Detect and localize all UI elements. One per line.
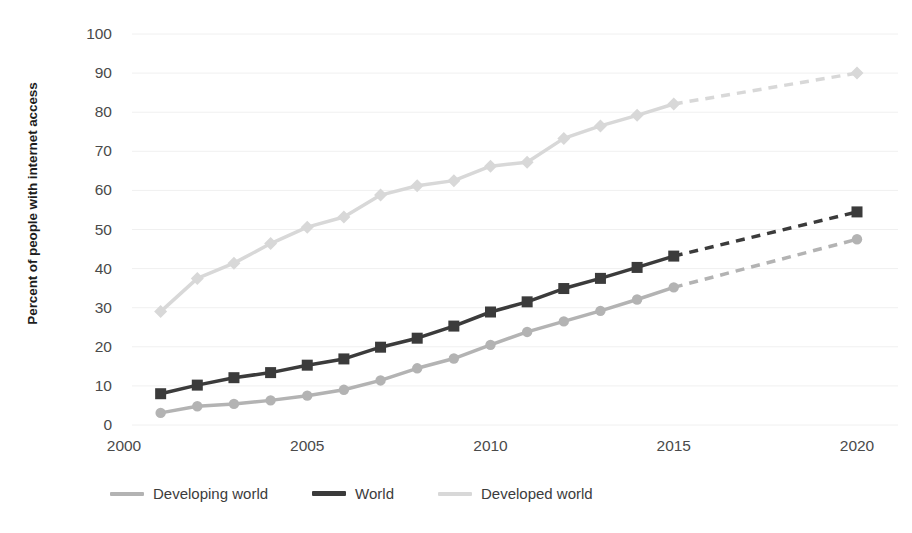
- data-point-marker: [412, 333, 423, 344]
- series-line-dashed: [674, 239, 857, 287]
- data-point-marker: [595, 273, 606, 284]
- y-tick-label: 100: [60, 25, 112, 43]
- legend-label: Developed world: [481, 485, 593, 502]
- legend-item-world[interactable]: World: [312, 485, 394, 502]
- y-tick-label: 30: [60, 299, 112, 317]
- data-point-marker: [338, 353, 349, 364]
- data-point-marker: [301, 221, 314, 234]
- data-point-marker: [558, 283, 569, 294]
- data-point-marker: [155, 388, 166, 399]
- data-point-marker: [667, 97, 680, 110]
- data-point-marker: [339, 385, 349, 395]
- legend-color-swatch: [438, 492, 472, 496]
- data-point-marker: [852, 234, 862, 244]
- data-point-marker: [265, 367, 276, 378]
- data-point-marker: [192, 401, 202, 411]
- legend-item-developing-world[interactable]: Developing world: [110, 485, 268, 502]
- data-point-marker: [449, 353, 459, 363]
- series-line-solid: [161, 287, 674, 413]
- chart-legend: Developing worldWorldDeveloped world: [110, 485, 593, 502]
- y-tick-label: 20: [60, 338, 112, 356]
- series-developing-world: [155, 234, 862, 418]
- data-point-marker: [669, 282, 679, 292]
- data-point-marker: [522, 327, 532, 337]
- series-world: [155, 206, 862, 399]
- y-tick-label: 50: [60, 221, 112, 239]
- data-point-marker: [265, 395, 275, 405]
- data-point-marker: [447, 174, 460, 187]
- series-developed-world: [154, 67, 863, 319]
- data-point-marker: [522, 296, 533, 307]
- data-point-marker: [594, 119, 607, 132]
- chart-container: Percent of people with internet access 0…: [0, 0, 912, 533]
- data-point-marker: [228, 372, 239, 383]
- data-point-marker: [852, 206, 863, 217]
- x-tick-label: 2010: [473, 437, 507, 455]
- series-line-dashed: [674, 212, 857, 256]
- y-tick-label: 10: [60, 377, 112, 395]
- data-point-marker: [302, 360, 313, 371]
- data-point-marker: [155, 408, 165, 418]
- data-point-marker: [851, 67, 864, 80]
- y-tick-label: 0: [60, 416, 112, 434]
- series-line-dashed: [674, 73, 857, 104]
- data-point-marker: [631, 109, 644, 122]
- data-point-marker: [668, 251, 679, 262]
- data-point-marker: [632, 294, 642, 304]
- y-tick-label: 70: [60, 142, 112, 160]
- data-point-marker: [595, 306, 605, 316]
- legend-label: World: [355, 485, 394, 502]
- legend-color-swatch: [312, 491, 346, 496]
- y-axis-title: Percent of people with internet access: [25, 54, 40, 354]
- data-point-marker: [559, 316, 569, 326]
- data-point-marker: [375, 342, 386, 353]
- data-point-marker: [632, 262, 643, 273]
- data-point-marker: [484, 160, 497, 173]
- series-layer: [154, 67, 863, 418]
- data-point-marker: [485, 307, 496, 318]
- data-point-marker: [485, 340, 495, 350]
- legend-color-swatch: [110, 492, 144, 496]
- data-point-marker: [302, 390, 312, 400]
- legend-item-developed-world[interactable]: Developed world: [438, 485, 593, 502]
- data-point-marker: [227, 257, 240, 270]
- x-tick-label: 2000: [107, 437, 141, 455]
- x-tick-label: 2020: [840, 437, 874, 455]
- data-point-marker: [264, 237, 277, 250]
- data-point-marker: [412, 363, 422, 373]
- legend-label: Developing world: [153, 485, 268, 502]
- y-tick-label: 90: [60, 64, 112, 82]
- y-tick-label: 40: [60, 260, 112, 278]
- data-point-marker: [448, 321, 459, 332]
- y-tick-label: 60: [60, 181, 112, 199]
- data-point-marker: [229, 399, 239, 409]
- x-tick-label: 2005: [290, 437, 324, 455]
- data-point-marker: [192, 380, 203, 391]
- data-point-marker: [375, 375, 385, 385]
- x-tick-label: 2015: [657, 437, 691, 455]
- y-tick-label: 80: [60, 103, 112, 121]
